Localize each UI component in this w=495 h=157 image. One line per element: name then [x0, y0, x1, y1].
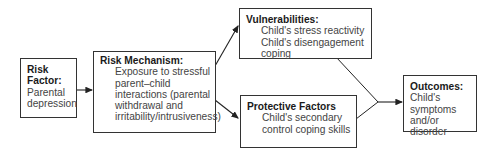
- protective-factors-title: Protective Factors: [247, 101, 356, 112]
- node-vulnerabilities: Vulnerabilities: Child's stress reactivi…: [239, 8, 372, 59]
- node-protective-factors: Protective Factors Child's secondary con…: [240, 95, 357, 148]
- arrow-mechanism-to-vulnerabilities: [215, 26, 238, 66]
- outcomes-body-line1: Child's: [410, 92, 476, 103]
- protective-factors-body-line1: Child's secondary: [262, 112, 356, 123]
- risk-mechanism-body-line5: irritability/intrusiveness): [115, 111, 215, 122]
- risk-mechanism-title: Risk Mechanism:: [100, 55, 215, 66]
- risk-mechanism-body-line1: Exposure to stressful: [115, 66, 215, 77]
- risk-mechanism-body-line2: parent–child: [115, 78, 215, 89]
- vulnerabilities-body-line3: coping: [261, 48, 371, 59]
- outcomes-body-line2: symptoms: [410, 104, 476, 115]
- outcomes-body-line3: and/or disorder: [410, 115, 476, 138]
- risk-factor-body-line2: depression: [27, 98, 76, 109]
- outcomes-title: Outcomes:: [410, 81, 476, 92]
- vulnerabilities-body-line2: Child's disengagement: [261, 37, 371, 48]
- vulnerabilities-body-line1: Child's stress reactivity: [261, 25, 371, 36]
- risk-factor-title-line2: Factor:: [27, 75, 76, 86]
- protective-factors-body-line2: control coping skills: [262, 124, 356, 135]
- risk-mechanism-body-line3: interactions (parental: [115, 89, 215, 100]
- vulnerabilities-title: Vulnerabilities:: [246, 14, 371, 25]
- risk-factor-body-line1: Parental: [27, 87, 76, 98]
- node-risk-factor: Risk Factor: Parental depression: [20, 58, 77, 118]
- node-outcomes: Outcomes: Child's symptoms and/or disord…: [403, 75, 477, 132]
- risk-mechanism-body-line4: withdrawal and: [115, 100, 215, 111]
- node-risk-mechanism: Risk Mechanism: Exposure to stressful pa…: [93, 51, 216, 133]
- risk-factor-title-line1: Risk: [27, 64, 76, 75]
- line-protective-to-merge: [356, 102, 378, 119]
